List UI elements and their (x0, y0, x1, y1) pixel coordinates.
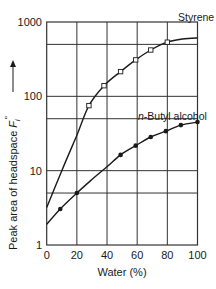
y-tick-label: 1 (36, 239, 42, 251)
data-point-square (118, 69, 122, 73)
y-axis-ticks: 1101001000 (18, 16, 42, 251)
data-point-circle (179, 123, 184, 128)
data-point-square (149, 48, 153, 52)
x-tick-label: 20 (71, 249, 83, 261)
y-axis-label-prime: '' (3, 116, 13, 120)
y-tick-label: 10 (30, 165, 42, 177)
data-point-square (102, 84, 106, 88)
data-point-square (133, 58, 137, 62)
x-axis-label: Water (%) (97, 266, 146, 278)
data-point-circle (75, 191, 80, 196)
plot-frame (47, 22, 198, 245)
data-point-circle (118, 153, 123, 158)
series-label-n-butyl-alcohol: n-Butyl alcohol (138, 110, 207, 122)
y-axis-label: Peak area of headspace Fi'' (3, 60, 21, 250)
series-line-styrene (47, 38, 198, 208)
y-axis-label-subscript: i (14, 119, 21, 121)
x-axis-ticks: 020406080100 (44, 249, 207, 261)
series-line-n-butyl-alcohol (47, 122, 198, 224)
y-tick-label: 1000 (18, 16, 42, 28)
series-label-styrene: Styrene (178, 11, 214, 23)
x-tick-label: 80 (161, 249, 173, 261)
x-tick-label: 100 (188, 249, 206, 261)
data-point-circle (133, 143, 138, 148)
data-point-circle (148, 135, 153, 140)
series-curves (47, 38, 198, 224)
svg-text:Peak area of headspace Fi'': Peak area of headspace Fi'' (3, 116, 21, 250)
data-point-circle (164, 129, 169, 134)
x-tick-label: 60 (131, 249, 143, 261)
series-label-rest: -Butyl alcohol (144, 110, 207, 122)
y-axis-label-text: Peak area of headspace (7, 128, 19, 250)
grid-lines (47, 22, 198, 245)
x-tick-label: 0 (44, 249, 50, 261)
x-tick-label: 40 (101, 249, 113, 261)
data-point-square (87, 103, 91, 107)
arrow-up-icon (10, 60, 16, 67)
data-point-square (165, 40, 169, 44)
data-point-circle (58, 207, 63, 212)
y-tick-label: 100 (24, 90, 42, 102)
chart-canvas: 020406080100 1101001000 Water (%) Peak a… (0, 0, 216, 289)
